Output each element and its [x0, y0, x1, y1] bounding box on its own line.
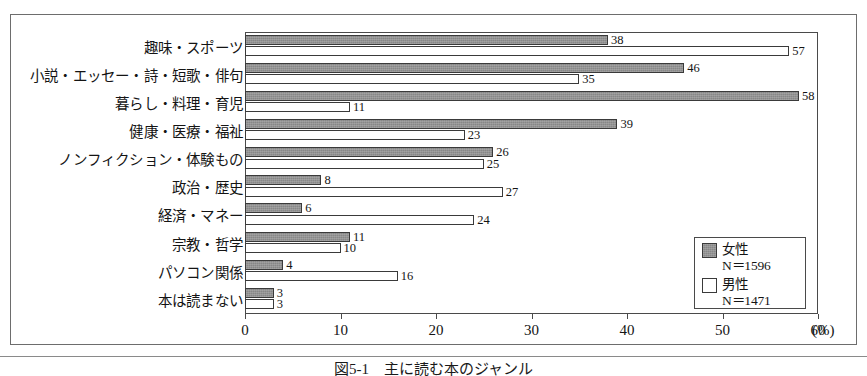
male-swatch-icon [702, 278, 717, 293]
bar-男性-本は読まない [245, 299, 274, 309]
legend-female-label: 女性 [722, 242, 748, 257]
x-tick-mark [436, 314, 437, 319]
legend-male-label: 男性 [722, 277, 748, 292]
category-label: パソコン関係 [0, 266, 243, 281]
bar-女性-趣味・スポーツ [245, 35, 608, 45]
legend-female-n: N＝1596 [722, 258, 771, 273]
x-tick-mark [818, 314, 819, 319]
bar-value-label: 27 [506, 186, 519, 199]
category-label: 政治・歴史 [0, 181, 243, 196]
bar-男性-小説・エッセー・詩・短歌・俳句 [245, 74, 579, 84]
category-label: 経済・マネー [0, 209, 243, 224]
bar-value-label: 57 [792, 45, 805, 58]
bar-value-label: 10 [344, 242, 357, 255]
bar-value-label: 46 [687, 62, 700, 75]
chart-row: 趣味・スポーツ3857 [0, 35, 867, 63]
x-tick-label: 0 [241, 323, 249, 338]
x-tick-label: 20 [429, 323, 444, 338]
category-label: 宗教・哲学 [0, 238, 243, 253]
x-tick-mark [245, 314, 246, 319]
female-swatch-icon [702, 243, 717, 258]
bar-女性-経済・マネー [245, 203, 302, 213]
bar-value-label: 8 [324, 174, 330, 187]
x-axis: 0102030405060 [245, 314, 818, 320]
bar-女性-政治・歴史 [245, 175, 321, 185]
category-label: ノンフィクション・体験もの [0, 153, 243, 168]
legend-item-female: 女性 N＝1596 [702, 242, 805, 275]
category-label: 本は読まない [0, 294, 243, 309]
category-label: 趣味・スポーツ [0, 41, 243, 56]
chart-row: ノンフィクション・体験もの2625 [0, 147, 867, 175]
legend-male-n: N＝1471 [722, 293, 771, 308]
bar-value-label: 4 [286, 259, 292, 272]
chart-legend: 女性 N＝1596 男性 N＝1471 [694, 237, 806, 309]
bar-男性-宗教・哲学 [245, 243, 341, 253]
chart-row: 政治・歴史827 [0, 175, 867, 203]
bar-value-label: 24 [477, 214, 490, 227]
chart-row: 経済・マネー624 [0, 203, 867, 231]
x-tick-mark [341, 314, 342, 319]
legend-male-text: 男性 N＝1471 [722, 277, 771, 310]
bar-value-label: 11 [353, 101, 365, 114]
chart-row: 暮らし・料理・育児5811 [0, 91, 867, 119]
legend-female-text: 女性 N＝1596 [722, 242, 771, 275]
legend-item-male: 男性 N＝1471 [702, 277, 805, 310]
x-tick-label: 10 [333, 323, 348, 338]
bar-value-label: 6 [305, 202, 311, 215]
bar-女性-本は読まない [245, 288, 274, 298]
bar-女性-健康・医療・福祉 [245, 119, 617, 129]
bar-男性-ノンフィクション・体験もの [245, 159, 484, 169]
bar-value-label: 58 [802, 90, 815, 103]
chart-row: 小説・エッセー・詩・短歌・俳句4635 [0, 63, 867, 91]
bar-男性-趣味・スポーツ [245, 46, 789, 56]
bar-chart: 趣味・スポーツ3857小説・エッセー・詩・短歌・俳句4635暮らし・料理・育児5… [0, 0, 867, 376]
bar-女性-暮らし・料理・育児 [245, 91, 799, 101]
x-tick-mark [627, 314, 628, 319]
x-axis-unit-label: (%) [812, 323, 835, 338]
x-tick-label: 40 [620, 323, 635, 338]
bar-女性-小説・エッセー・詩・短歌・俳句 [245, 63, 684, 73]
bar-女性-ノンフィクション・体験もの [245, 147, 493, 157]
figure-caption: 図5-1 主に読む本のジャンル [0, 362, 867, 376]
bar-男性-パソコン関係 [245, 271, 398, 281]
chart-row: 健康・医療・福祉3923 [0, 119, 867, 147]
bar-男性-健康・医療・福祉 [245, 130, 465, 140]
bar-value-label: 3 [277, 298, 283, 311]
caption-divider [0, 356, 867, 357]
bar-男性-経済・マネー [245, 215, 474, 225]
category-label: 健康・医療・福祉 [0, 125, 243, 140]
bar-男性-政治・歴史 [245, 187, 503, 197]
bar-value-label: 16 [401, 270, 414, 283]
category-label: 小説・エッセー・詩・短歌・俳句 [0, 69, 243, 84]
bar-value-label: 39 [620, 118, 633, 131]
bar-男性-暮らし・料理・育児 [245, 102, 350, 112]
x-tick-label: 50 [715, 323, 730, 338]
bar-value-label: 38 [611, 34, 624, 47]
category-label: 暮らし・料理・育児 [0, 97, 243, 112]
x-tick-mark [723, 314, 724, 319]
bar-女性-宗教・哲学 [245, 232, 350, 242]
bar-value-label: 35 [582, 73, 595, 86]
bar-value-label: 25 [487, 158, 500, 171]
bar-value-label: 23 [468, 129, 481, 142]
x-tick-mark [532, 314, 533, 319]
x-tick-label: 30 [524, 323, 539, 338]
bar-女性-パソコン関係 [245, 260, 283, 270]
